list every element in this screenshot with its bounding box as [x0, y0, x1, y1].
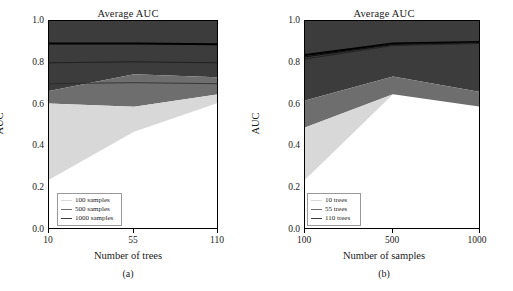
panel-b-ytick-3: 0.6 [272, 99, 300, 109]
panel-a-legend[interactable]: 100 samples 500 samples 1000 samples [57, 193, 122, 226]
panel-b-legend-item-110-trees[interactable]: 110 trees [311, 214, 356, 223]
panel-b: Average AUC 0.0 0.2 0.4 0.6 0.8 1.0 AUC [256, 0, 512, 291]
panel-a-xtickmark-0 [48, 229, 49, 233]
panel-a-ytick-2: 0.4 [16, 140, 44, 150]
panel-b-xtickmark-2 [479, 229, 480, 233]
legend-line-swatch-icon [311, 200, 322, 201]
panel-a-xtickmark-1 [133, 229, 134, 233]
legend-line-swatch-icon [311, 218, 322, 219]
panel-b-legend-label-2: 110 trees [325, 214, 350, 223]
panel-a-legend-item-1000-samples[interactable]: 1000 samples [61, 214, 117, 223]
panel-b-ylabel: AUC [250, 112, 261, 134]
panel-a: Average AUC 0.0 0.2 0.4 0.6 0.8 1.0 AUC [0, 0, 256, 291]
panel-b-xtick-2: 1000 [468, 235, 487, 245]
panel-b-legend[interactable]: 10 trees 55 trees 110 trees [307, 193, 361, 226]
panel-b-xtick-1: 500 [385, 235, 399, 245]
panel-a-band-100-samples [49, 94, 218, 180]
panel-a-ytick-4: 0.8 [16, 57, 44, 67]
panel-a-ytick-5: 1.0 [16, 15, 44, 25]
panel-a-xtick-2: 110 [210, 235, 224, 245]
panel-a-xtick-1: 55 [128, 235, 138, 245]
panel-a-legend-label-1: 500 samples [75, 205, 110, 214]
panel-b-legend-item-55-trees[interactable]: 55 trees [311, 205, 356, 214]
panel-b-ytick-2: 0.4 [272, 140, 300, 150]
panel-a-xlabel: Number of trees [0, 250, 256, 261]
panel-b-xtickmark-0 [304, 229, 305, 233]
panel-a-caption: (a) [0, 268, 256, 279]
panel-a-ytick-3: 0.6 [16, 99, 44, 109]
legend-line-swatch-icon [61, 209, 72, 210]
panel-b-ytick-5: 1.0 [272, 15, 300, 25]
panel-a-xtick-0: 10 [43, 235, 53, 245]
panel-a-legend-label-0: 100 samples [75, 196, 110, 205]
panel-b-xtick-0: 100 [297, 235, 311, 245]
legend-line-swatch-icon [61, 218, 72, 219]
panel-b-xtickmark-1 [392, 229, 393, 233]
panel-b-legend-item-10-trees[interactable]: 10 trees [311, 196, 356, 205]
panel-b-ytick-0: 0.0 [272, 224, 300, 234]
panel-a-ytick-0: 0.0 [16, 224, 44, 234]
panel-b-caption: (b) [256, 268, 512, 279]
panel-a-mean-line-1000-samples [49, 43, 218, 44]
panel-a-ytick-1: 0.2 [16, 182, 44, 192]
panel-a-legend-label-2: 1000 samples [75, 214, 113, 223]
panel-a-legend-item-100-samples[interactable]: 100 samples [61, 196, 117, 205]
panel-a-legend-item-500-samples[interactable]: 500 samples [61, 205, 117, 214]
panel-b-xlabel: Number of samples [256, 250, 512, 261]
figure-two-panel-auc: Average AUC 0.0 0.2 0.4 0.6 0.8 1.0 AUC [0, 0, 513, 291]
panel-b-ytick-4: 0.8 [272, 57, 300, 67]
legend-line-swatch-icon [311, 209, 322, 210]
panel-b-ytick-1: 0.2 [272, 182, 300, 192]
legend-line-swatch-icon [61, 200, 72, 201]
panel-b-legend-label-0: 10 trees [325, 196, 347, 205]
panel-a-xtickmark-2 [217, 229, 218, 233]
panel-b-legend-label-1: 55 trees [325, 205, 347, 214]
panel-a-ylabel: AUC [0, 112, 5, 134]
